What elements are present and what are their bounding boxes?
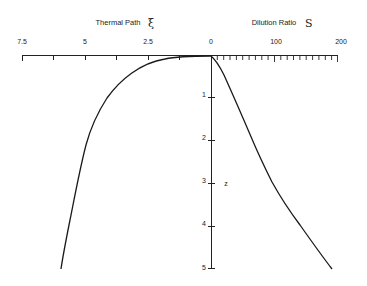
z-tick-1: 1 [202,91,206,98]
chart-canvas: Thermal Path ξ Dilution Ratio S 7.5 5 2.… [0,0,367,286]
tick-label-200: 200 [335,38,347,45]
z-tick-2: 2 [202,134,206,141]
dilution-ratio-curve [211,56,332,269]
tick-label-0: 0 [209,38,213,45]
tick-label-100: 100 [270,38,282,45]
z-axis-label: z [224,180,228,187]
z-tick-5: 5 [202,264,206,271]
xi-symbol: ξ [148,17,154,30]
right-axis-title: Dilution Ratio [252,18,297,27]
tick-label-7.5: 7.5 [17,38,27,45]
tick-label-2.5: 2.5 [143,38,153,45]
z-tick-3: 3 [202,177,206,184]
right-axis-ticks [217,55,337,62]
thermal-path-curve [61,56,211,269]
z-tick-4: 4 [202,220,206,227]
tick-label-5: 5 [83,38,87,45]
left-axis-title: Thermal Path [95,18,140,27]
s-symbol: S [305,17,313,30]
